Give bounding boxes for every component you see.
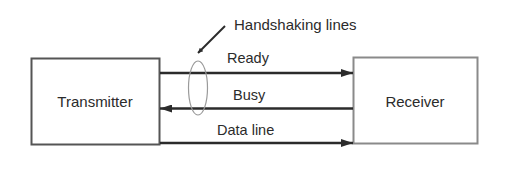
handshaking-group-ellipse (189, 61, 208, 115)
receiver-label: Receiver (385, 93, 444, 110)
handshaking-annotation: Handshaking lines (198, 16, 357, 53)
ready-label: Ready (227, 50, 270, 66)
data-line-label: Data line (217, 122, 274, 138)
pointer-arrow-icon (198, 26, 225, 53)
data-line: Data line (160, 122, 353, 143)
transmitter-node: Transmitter (32, 59, 160, 145)
receiver-node: Receiver (354, 58, 478, 144)
ready-line: Ready (160, 50, 353, 73)
handshaking-lines-label: Handshaking lines (234, 16, 357, 33)
busy-label: Busy (233, 87, 266, 103)
transmitter-label: Transmitter (57, 93, 132, 110)
handshaking-diagram: Transmitter Receiver Ready Busy Data lin… (0, 0, 508, 174)
